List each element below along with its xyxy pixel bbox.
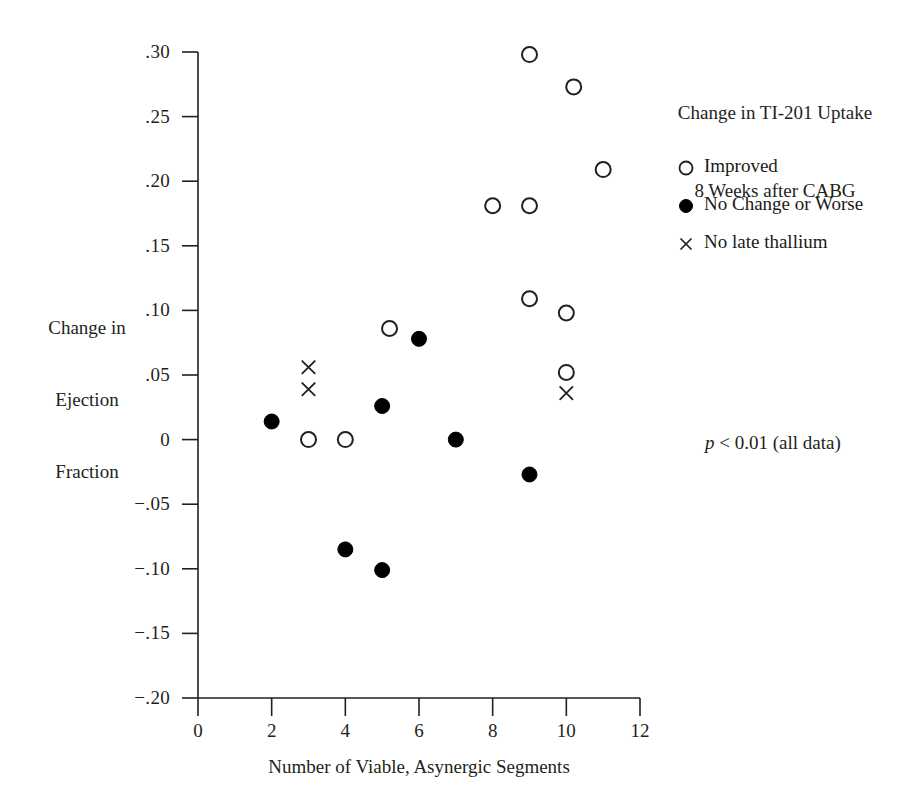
data-point-open-circle xyxy=(485,198,500,213)
legend-item-label: No late thallium xyxy=(704,231,827,253)
y-axis-tick-label: .20 xyxy=(100,170,170,192)
data-point-cross xyxy=(302,361,314,373)
series-no-late-thallium xyxy=(302,361,572,399)
data-point-open-circle xyxy=(559,365,574,380)
x-axis-tick-label: 6 xyxy=(399,720,439,742)
x-axis-tick-label: 4 xyxy=(325,720,365,742)
data-point-open-circle xyxy=(566,79,581,94)
data-point-filled-circle xyxy=(412,331,427,346)
data-point-filled-circle xyxy=(375,399,390,414)
data-point-cross xyxy=(302,383,314,395)
x-axis-tick-label: 0 xyxy=(178,720,218,742)
data-point-filled-circle xyxy=(338,542,353,557)
data-point-filled-circle xyxy=(448,432,463,447)
y-axis-tick-label: .25 xyxy=(100,106,170,128)
axes xyxy=(182,52,640,716)
legend-item-label: Improved xyxy=(704,155,778,177)
y-axis-tick-label: −.10 xyxy=(100,558,170,580)
y-axis-title-line-1: Change in xyxy=(22,316,152,340)
y-axis-title-line-2: Ejection xyxy=(22,388,152,412)
legend: ImprovedNo Change or WorseNo late thalli… xyxy=(676,155,916,269)
data-point-open-circle xyxy=(559,305,574,320)
legend-marker-filled-circle xyxy=(676,196,696,216)
data-point-open-circle xyxy=(522,291,537,306)
x-axis-tick-label: 12 xyxy=(620,720,660,742)
y-axis-tick-label: .30 xyxy=(100,41,170,63)
series-no-change-or-worse xyxy=(264,331,537,577)
y-axis-title-line-3: Fraction xyxy=(22,460,152,484)
series-improved xyxy=(301,47,611,447)
x-axis-tick-label: 10 xyxy=(546,720,586,742)
data-point-cross xyxy=(560,387,572,399)
data-point-open-circle xyxy=(522,198,537,213)
data-point-open-circle xyxy=(338,432,353,447)
data-point-open-circle xyxy=(522,47,537,62)
p-value-text: < 0.01 (all data) xyxy=(715,432,841,453)
data-point-filled-circle xyxy=(522,467,537,482)
y-axis-ticks xyxy=(182,52,198,698)
y-axis-tick-label: .15 xyxy=(100,235,170,257)
data-point-filled-circle xyxy=(375,563,390,578)
x-axis-tick-label: 8 xyxy=(473,720,513,742)
y-axis-title: Change in Ejection Fraction xyxy=(22,268,152,532)
legend-item-label: No Change or Worse xyxy=(704,193,863,215)
data-points xyxy=(264,47,611,578)
p-value-annotation: p < 0.01 (all data) xyxy=(686,410,841,476)
y-axis-tick-label: −.20 xyxy=(100,687,170,709)
legend-item: Improved xyxy=(676,155,916,193)
data-point-open-circle xyxy=(596,162,611,177)
x-axis-ticks xyxy=(198,698,640,716)
x-axis-title: Number of Viable, Asynergic Segments xyxy=(199,756,639,778)
x-axis-tick-label: 2 xyxy=(252,720,292,742)
data-point-filled-circle xyxy=(264,414,279,429)
chart-title-line-1: Change in TI-201 Uptake xyxy=(640,100,910,126)
legend-item: No late thallium xyxy=(676,231,916,269)
y-axis-tick-label: −.15 xyxy=(100,622,170,644)
p-symbol: p xyxy=(705,432,715,453)
legend-marker-cross xyxy=(676,234,696,254)
legend-marker-open-circle xyxy=(676,158,696,178)
legend-item: No Change or Worse xyxy=(676,193,916,231)
scatter-plot-figure: .30.25.20.15.10.050−.05−.10−.15−.20 0246… xyxy=(0,0,923,810)
data-point-open-circle xyxy=(301,432,316,447)
data-point-open-circle xyxy=(382,321,397,336)
